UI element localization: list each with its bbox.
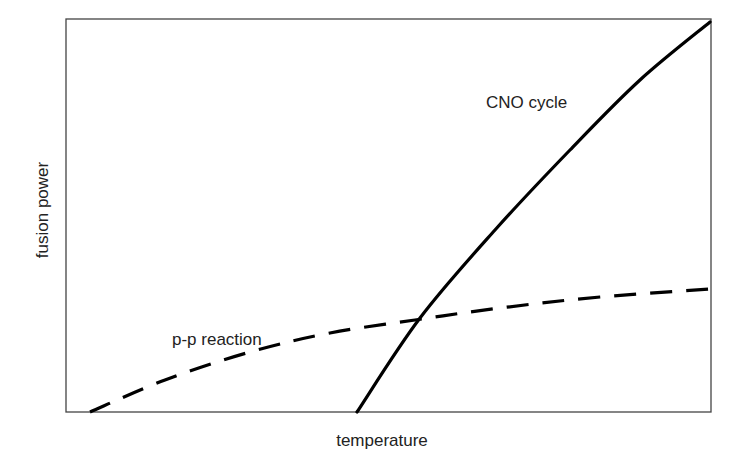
y-axis-label: fusion power [33, 161, 52, 258]
fusion-power-chart: CNO cycle p-p reaction temperature fusio… [0, 0, 741, 473]
x-axis-label: temperature [336, 431, 428, 450]
cno-cycle-label: CNO cycle [486, 93, 567, 112]
pp-reaction-label: p-p reaction [172, 330, 262, 349]
plot-frame [66, 19, 711, 412]
